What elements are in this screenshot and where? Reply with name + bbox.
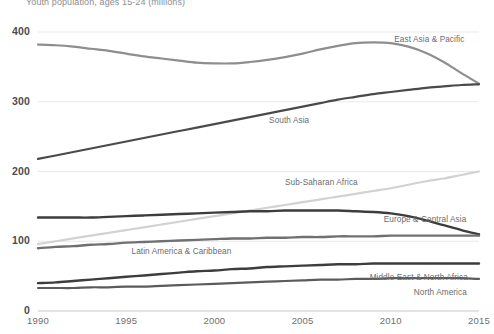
series-lines xyxy=(38,42,479,288)
series-label-6: North America xyxy=(414,288,467,297)
gridlines xyxy=(38,32,479,311)
x-tick-label: 2010 xyxy=(371,315,411,326)
series-label-1: South Asia xyxy=(269,116,309,125)
series-label-2: Sub-Saharan Africa xyxy=(285,178,358,187)
series-line-4[interactable] xyxy=(38,236,479,249)
x-tick-label: 1995 xyxy=(106,315,146,326)
series-label-5: Middle East & North Africa xyxy=(370,273,468,282)
x-tick-label: 1990 xyxy=(18,315,58,326)
series-label-4: Latin America & Caribbean xyxy=(131,247,231,256)
y-tick-label: 300 xyxy=(0,95,30,107)
series-line-0[interactable] xyxy=(38,42,479,83)
y-tick-label: 200 xyxy=(0,165,30,177)
series-label-3: Europe & Central Asia xyxy=(384,215,467,224)
series-line-2[interactable] xyxy=(38,172,479,245)
y-tick-label: 100 xyxy=(0,234,30,246)
y-tick-label: 400 xyxy=(0,25,30,37)
series-label-0: East Asia & Pacific xyxy=(394,35,464,44)
series-line-1[interactable] xyxy=(38,84,479,159)
x-tick-label: 2000 xyxy=(194,315,234,326)
x-tick-label: 2015 xyxy=(459,315,494,326)
x-tick-label: 2005 xyxy=(283,315,323,326)
